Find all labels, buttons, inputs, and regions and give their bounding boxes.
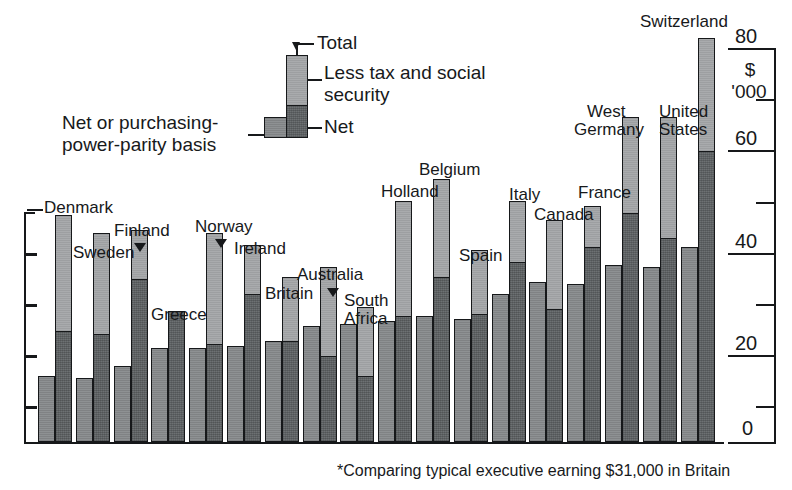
country-label-spain: Spain xyxy=(459,247,502,265)
left-axis-tick-30 xyxy=(24,355,37,358)
bar-ppp-britain xyxy=(265,341,282,442)
left-axis-tick-top xyxy=(24,212,35,214)
country-label-france: France xyxy=(578,184,631,202)
country-label-west-germany-1: West xyxy=(587,103,625,121)
country-label-norway: Norway xyxy=(195,218,253,236)
country-label-denmark: Denmark xyxy=(44,199,113,217)
country-label-belgium: Belgium xyxy=(419,161,480,179)
legend-ppp-bar xyxy=(264,117,287,138)
right-axis-tick-10 xyxy=(756,406,776,408)
bar-total-spain xyxy=(471,250,488,442)
country-label-west-germany-2: Germany xyxy=(574,121,644,139)
right-axis-tick-40 xyxy=(728,253,776,255)
bar-net-spain xyxy=(471,314,488,442)
country-label-australia: Australia xyxy=(297,266,363,284)
left-axis-line xyxy=(24,212,26,444)
bar-total-greece xyxy=(168,316,185,442)
bar-total-united-states xyxy=(660,117,677,442)
y-tick-label-20: 20 xyxy=(735,333,757,353)
bar-ppp-ireland xyxy=(227,346,244,442)
bar-total-italy xyxy=(509,201,526,442)
legend-ppp-label-2: power-parity basis xyxy=(62,134,216,156)
bar-net-holland xyxy=(395,316,412,442)
bar-net-south-africa xyxy=(357,376,374,442)
right-axis-tick-30 xyxy=(756,304,776,306)
legend-tax-label-2: security xyxy=(324,84,389,106)
legend-tax-leader xyxy=(308,79,322,81)
right-axis-tick-50 xyxy=(756,202,776,204)
bar-total-denmark xyxy=(55,215,72,442)
bar-net-norway xyxy=(206,344,223,443)
bar-net-switzerland xyxy=(698,151,715,442)
legend-tax-label-1: Less tax and social xyxy=(324,62,486,84)
country-label-switzerland: Switzerland xyxy=(640,13,728,31)
bar-net-denmark xyxy=(55,331,72,442)
right-axis-tick-60 xyxy=(728,150,776,152)
country-label-italy: Italy xyxy=(509,186,540,204)
bar-ppp-italy xyxy=(492,294,509,442)
bar-total-sweden xyxy=(93,233,110,442)
bar-net-belgium xyxy=(433,277,450,442)
bar-total-switzerland xyxy=(698,38,715,442)
country-label-sweden: Sweden xyxy=(73,244,134,262)
bar-ppp-sweden xyxy=(76,378,93,442)
bar-net-finland xyxy=(131,279,148,442)
bar-ppp-canada xyxy=(529,282,546,442)
bar-ppp-belgium xyxy=(416,316,433,442)
legend-total-label: Total xyxy=(317,32,357,54)
bar-ppp-south-africa xyxy=(340,324,357,442)
bar-ppp-denmark xyxy=(38,376,55,442)
bar-net-britain xyxy=(282,341,299,442)
right-axis-line xyxy=(774,48,776,444)
y-tick-label-0: 0 xyxy=(742,418,753,438)
country-label-united-states-2: States xyxy=(659,121,707,139)
bar-total-norway xyxy=(206,233,223,442)
chart-footnote: *Comparing typical executive earning $31… xyxy=(337,462,730,480)
bar-net-italy xyxy=(509,262,526,442)
bar-ppp-switzerland xyxy=(681,247,698,442)
country-label-finland: Finland xyxy=(114,222,170,240)
country-label-britain: Britain xyxy=(265,285,313,303)
country-label-holland: Holland xyxy=(381,183,439,201)
country-label-canada: Canada xyxy=(534,206,594,224)
bar-ppp-west-germany xyxy=(605,265,622,442)
bar-total-canada xyxy=(546,220,563,442)
country-label-south-africa-2: Africa xyxy=(344,310,387,328)
bar-total-france xyxy=(584,206,601,442)
legend-total-leader-h xyxy=(296,43,314,45)
y-tick-label-40: 40 xyxy=(735,231,757,251)
bar-ppp-australia xyxy=(303,326,320,442)
axis-unit-thousands: '000 xyxy=(724,82,774,101)
australia-pointer-icon xyxy=(327,288,339,297)
left-axis-tick-20 xyxy=(24,406,37,409)
bar-net-canada xyxy=(546,309,563,442)
finland-pointer-icon xyxy=(134,243,146,252)
bar-total-ireland xyxy=(244,245,261,442)
right-axis-tick-20 xyxy=(728,355,776,357)
country-label-south-africa-1: South xyxy=(344,292,388,310)
country-label-ireland: Ireland xyxy=(234,240,286,258)
bar-net-france xyxy=(584,247,601,442)
legend-ppp-leader xyxy=(248,134,265,136)
left-axis-tick-40 xyxy=(24,304,37,307)
bar-ppp-united-states xyxy=(643,267,660,442)
bar-net-united-states xyxy=(660,238,677,442)
bar-ppp-spain xyxy=(454,319,471,442)
axis-unit-dollar: $ xyxy=(728,60,772,79)
norway-pointer-icon xyxy=(215,239,227,248)
right-axis-tick-80 xyxy=(728,48,776,50)
bar-ppp-france xyxy=(567,284,584,442)
bar-total-holland xyxy=(395,201,412,442)
bar-net-west-germany xyxy=(622,213,639,442)
country-label-greece: Greece xyxy=(151,306,207,324)
bar-net-ireland xyxy=(244,294,261,442)
right-axis-baseline-tick xyxy=(728,442,776,444)
bar-ppp-norway xyxy=(189,348,206,442)
bar-ppp-greece xyxy=(151,348,168,442)
bar-ppp-finland xyxy=(114,366,131,442)
left-axis-tick-60 xyxy=(24,253,37,256)
bar-net-sweden xyxy=(93,334,110,442)
denmark-leader-h xyxy=(27,209,43,211)
y-tick-label-80: 80 xyxy=(735,26,757,46)
left-axis-baseline xyxy=(24,442,724,444)
